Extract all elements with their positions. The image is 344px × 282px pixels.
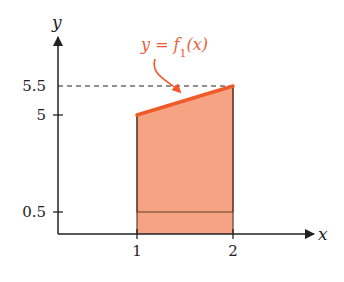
y-tick-label: 0.5 xyxy=(22,203,46,221)
y-axis-label: y xyxy=(51,12,62,32)
x-tick-label: 1 xyxy=(132,242,142,260)
y-tick-label: 5 xyxy=(36,106,46,124)
function-label-arrow xyxy=(154,59,180,92)
x-axis-label: x xyxy=(318,224,328,244)
x-tick-label: 2 xyxy=(228,242,238,260)
y-ticks: 0.555.5 xyxy=(22,77,63,221)
diagram: x y 12 0.555.5 y = f1(x) xyxy=(0,0,344,282)
function-label-suffix: (x) xyxy=(187,35,209,54)
y-tick-label: 5.5 xyxy=(22,77,46,95)
function-label: y = f1(x) xyxy=(140,35,208,60)
function-label-text: y = f xyxy=(140,35,183,54)
function-label-subscript: 1 xyxy=(180,47,187,60)
